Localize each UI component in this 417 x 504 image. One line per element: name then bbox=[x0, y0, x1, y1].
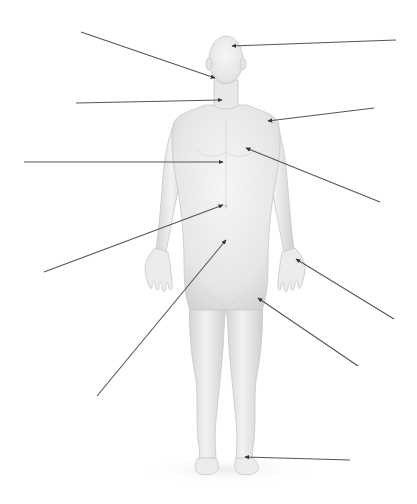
head bbox=[209, 36, 243, 84]
anatomy-diagram bbox=[0, 0, 417, 504]
left-hand bbox=[278, 248, 305, 292]
leader-line-thigh bbox=[258, 298, 358, 366]
left-foot bbox=[235, 458, 258, 475]
leader-line-palm bbox=[296, 259, 394, 319]
floor-shadow bbox=[141, 456, 311, 484]
right-hand bbox=[145, 248, 172, 292]
left-leg bbox=[226, 300, 263, 462]
right-foot bbox=[195, 458, 218, 475]
leader-line-face bbox=[81, 32, 215, 78]
left-ear bbox=[240, 58, 246, 70]
right-ear bbox=[206, 58, 212, 70]
right-leg bbox=[189, 300, 226, 462]
leader-line-head-top bbox=[232, 40, 396, 46]
leader-line-shoulder bbox=[268, 108, 374, 121]
leader-line-neck bbox=[76, 100, 222, 103]
human-figure bbox=[145, 36, 305, 475]
